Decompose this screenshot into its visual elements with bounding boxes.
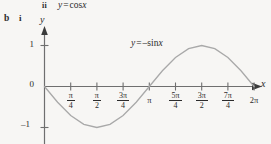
fraction-denominator: 4 (117, 101, 129, 110)
x-axis-label: x (261, 78, 265, 89)
fraction-pi-over-4: π 4 (67, 92, 75, 110)
fraction-pi-over-2: π 2 (93, 92, 101, 110)
fraction-numerator: 3π (196, 92, 208, 101)
fraction-7pi-over-4: 7π 4 (222, 92, 234, 110)
fraction-numerator: π (67, 92, 75, 101)
fraction-3pi-over-2: 3π 2 (196, 92, 208, 110)
x-tick-label-2pi: 2π (241, 92, 267, 105)
fraction-5pi-over-4: 5π 4 (169, 92, 181, 110)
fraction-denominator: 4 (67, 101, 75, 110)
x-tick-label-pi-over-2: π 2 (84, 92, 110, 110)
tick-value-pi: π (147, 92, 151, 105)
x-tick-label-pi-over-4: π 4 (58, 92, 84, 110)
fraction-numerator: 3π (117, 92, 129, 101)
curve-equation-function: sin (147, 38, 158, 48)
x-tick-label-pi: π (136, 92, 162, 105)
x-tick-label-3pi-over-2: 3π 2 (189, 92, 215, 110)
y-tick-label-1: 1 (18, 39, 34, 49)
curve-equation-operator: = (135, 38, 142, 48)
x-tick-label-5pi-over-4: 5π 4 (163, 92, 189, 110)
figure-container: ii y=cosx b i (0, 0, 271, 144)
curve-equation-label: y=–sinx (131, 38, 163, 48)
y-tick-label-0: 0 (18, 79, 34, 89)
curve-equation-variable: x (158, 38, 162, 48)
fraction-numerator: π (93, 92, 101, 101)
fraction-denominator: 4 (169, 101, 181, 110)
fraction-denominator: 4 (222, 101, 234, 110)
fraction-numerator: 7π (222, 92, 234, 101)
y-tick-label-minus-1: –1 (14, 119, 30, 129)
fraction-denominator: 2 (93, 101, 101, 110)
fraction-numerator: 5π (169, 92, 181, 101)
fraction-3pi-over-4: 3π 4 (117, 92, 129, 110)
x-tick-label-3pi-over-4: 3π 4 (110, 92, 136, 110)
fraction-denominator: 2 (196, 101, 208, 110)
y-axis-label: y (40, 14, 44, 25)
y-axis-arrow (41, 26, 48, 35)
x-tick-label-7pi-over-4: 7π 4 (215, 92, 241, 110)
tick-value-2pi: 2π (250, 92, 259, 105)
